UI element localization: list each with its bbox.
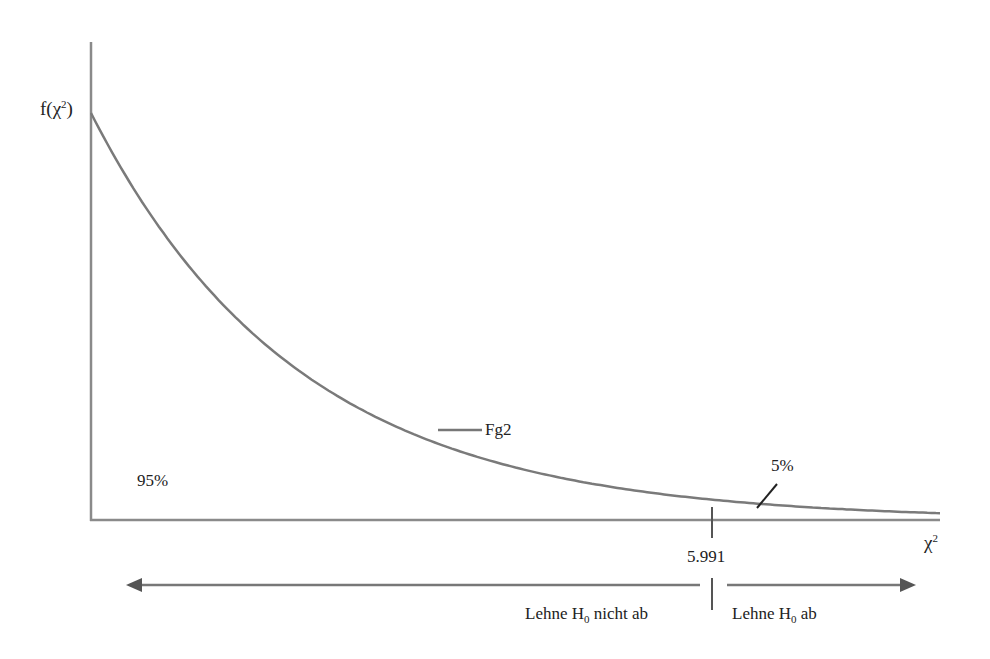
y-axis-label-close: ) [67, 98, 73, 119]
arrowhead-left-icon [126, 578, 142, 592]
y-axis-label: f(χ2) [40, 98, 73, 120]
region-left-suffix: nicht ab [590, 604, 649, 623]
critical-value-label: 5.991 [687, 547, 725, 567]
region-right-suffix: ab [797, 604, 817, 623]
region-label-reject: Lehne H0 ab [732, 604, 817, 625]
region-label-do-not-reject: Lehne H0 nicht ab [525, 604, 648, 625]
area-label-95: 95% [137, 471, 168, 491]
series-label-fg2: Fg2 [485, 420, 511, 440]
region-left-prefix: Lehne H [525, 604, 584, 623]
region-right-prefix: Lehne H [732, 604, 791, 623]
y-axis-label-text: f(χ [40, 98, 61, 119]
density-curve [91, 113, 940, 513]
x-axis-label: χ2 [924, 532, 938, 554]
arrowhead-right-icon [900, 578, 916, 592]
chi-square-chart [0, 0, 990, 659]
x-axis-label-sup: 2 [932, 532, 938, 544]
area-label-5: 5% [771, 456, 794, 476]
